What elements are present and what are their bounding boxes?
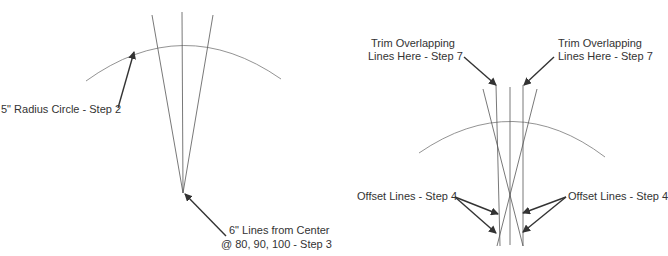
offset-right-arrow-1 [523,197,566,213]
line-80 [183,15,213,193]
trim-left-label-line2: Lines Here - Step 7 [368,50,463,62]
right-figure [419,57,605,246]
left-figure [86,12,281,236]
trim-left-label-line1: Trim Overlapping [371,37,455,49]
radius-circle-arc [419,121,605,157]
circle-label: 5" Radius Circle - Step 2 [1,103,121,115]
trim-right-arrow [524,57,554,85]
trim-left-arrow [464,57,496,85]
offset-left-label: Offset Lines - Step 4 [357,190,457,202]
trim-right-label-line2: Lines Here - Step 7 [558,50,653,62]
line-100 [152,15,183,193]
offset-left-line [496,85,500,246]
offset-right-arrow-2 [523,197,566,232]
radius-circle-arc [86,45,281,81]
lines-pointer-arrow [185,194,226,236]
offset-left-arrow-1 [455,197,498,214]
offset-left-arrow-2 [455,197,496,233]
trim-right-label-line1: Trim Overlapping [558,37,642,49]
center-line-90 [182,12,183,193]
lines-label-line1: 6" Lines from Center [229,224,330,236]
offset-right-label: Offset Lines - Step 4 [568,190,668,202]
lines-label-line2: @ 80, 90, 100 - Step 3 [221,238,332,250]
